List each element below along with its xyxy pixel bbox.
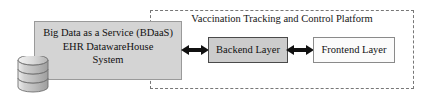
platform-title: Vaccination Tracking and Control Platfor… [152, 13, 412, 25]
double-headed-arrow-icon [181, 43, 209, 57]
architecture-diagram: Vaccination Tracking and Control Platfor… [0, 0, 428, 101]
backend-layer-box: Backend Layer [208, 37, 288, 63]
bdaas-label-line-2: EHR DatawareHouse [34, 40, 182, 54]
database-cylinder-icon [16, 56, 50, 101]
bdaas-label: Big Data as a Service (BDaaS) EHR Datawa… [34, 26, 182, 67]
double-headed-arrow-icon [286, 43, 314, 57]
bdaas-label-line-3: System [34, 53, 182, 67]
frontend-layer-box: Frontend Layer [313, 37, 395, 63]
bdaas-label-line-1: Big Data as a Service (BDaaS) [34, 26, 182, 40]
